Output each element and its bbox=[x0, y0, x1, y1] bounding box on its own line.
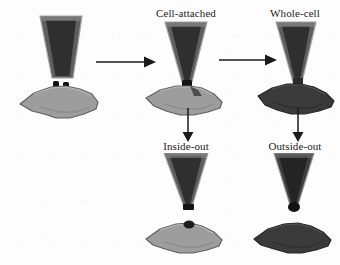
pipette-icon bbox=[274, 153, 314, 205]
panel-whole-cell bbox=[252, 20, 340, 120]
panel-label-cell-attached: Cell-attached bbox=[140, 7, 232, 19]
cell-icon bbox=[20, 86, 98, 118]
cell-icon bbox=[254, 223, 331, 253]
cell-icon bbox=[146, 221, 222, 254]
pipette-icon bbox=[165, 22, 207, 82]
panel-label-whole-cell: Whole-cell bbox=[255, 7, 335, 19]
panel-label-inside-out: Inside-out bbox=[142, 140, 230, 152]
whole-cell-illustration bbox=[252, 20, 340, 120]
outside-out-illustration bbox=[252, 153, 340, 261]
panel-outside-out bbox=[252, 153, 340, 261]
pipette-icon bbox=[40, 16, 82, 78]
panel-label-outside-out: Outside-out bbox=[253, 140, 337, 152]
panel-inside-out bbox=[142, 153, 234, 261]
pipette-icon bbox=[276, 22, 316, 82]
arrow-cell-attached-to-inside-out bbox=[178, 108, 198, 142]
membrane-bleb-icon bbox=[288, 202, 300, 212]
pipette-icon bbox=[164, 153, 208, 207]
excised-patch-icon bbox=[183, 204, 194, 210]
arrow-whole-cell-to-outside-out bbox=[288, 108, 308, 142]
inside-out-illustration bbox=[142, 153, 234, 261]
patch-clamp-configurations-figure: Cell-attached bbox=[0, 0, 340, 265]
